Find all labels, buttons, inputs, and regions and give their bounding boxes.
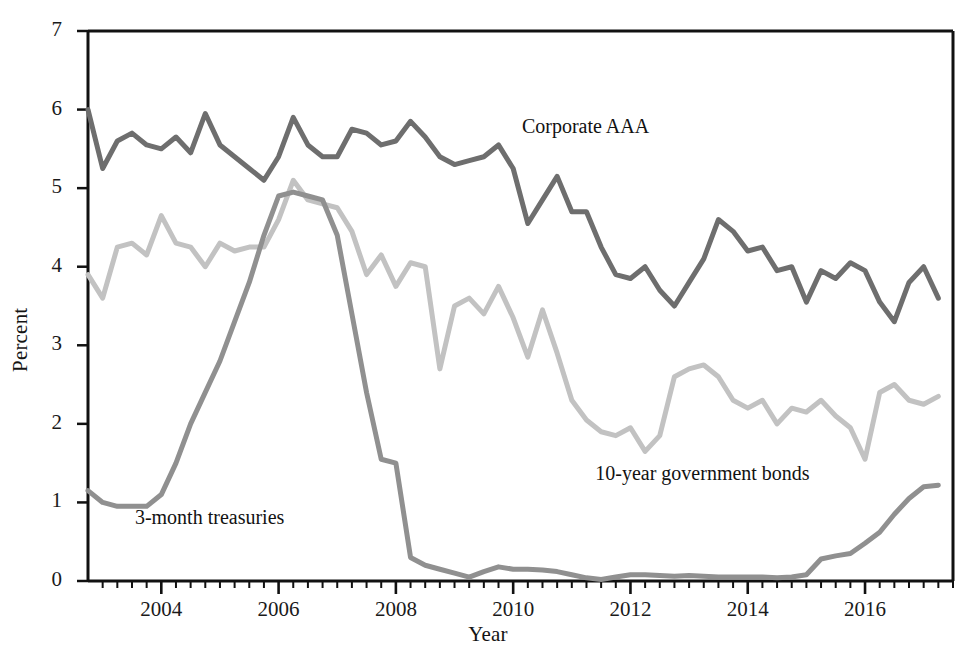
series-line-0	[88, 110, 938, 322]
y-tick-label-0: 0	[22, 567, 62, 592]
y-tick-label-4: 4	[22, 253, 62, 278]
y-tick-label-7: 7	[22, 17, 62, 42]
label-3-month-treasuries: 3-month treasuries	[135, 506, 284, 529]
x-tick-label-2016: 2016	[820, 597, 910, 622]
y-tick-label-2: 2	[22, 410, 62, 435]
x-tick-label-2012: 2012	[585, 597, 675, 622]
x-tick-label-2004: 2004	[116, 597, 206, 622]
y-tick-label-5: 5	[22, 174, 62, 199]
chart-figure: Percent Year 01234567 200420062008201020…	[0, 0, 976, 659]
y-tick-label-6: 6	[22, 96, 62, 121]
x-tick-label-2008: 2008	[351, 597, 441, 622]
x-tick-label-2010: 2010	[468, 597, 558, 622]
x-tick-label-2006: 2006	[234, 597, 324, 622]
line-chart-plot	[0, 0, 976, 659]
x-tick-label-2014: 2014	[703, 597, 793, 622]
series-line-1	[88, 180, 938, 459]
axis-lines	[88, 31, 953, 581]
y-tick-label-1: 1	[22, 488, 62, 513]
y-axis-ticks	[77, 31, 88, 581]
y-tick-label-3: 3	[22, 331, 62, 356]
x-axis-ticks	[103, 581, 953, 594]
label-10-year-government-bonds: 10-year government bonds	[595, 462, 809, 485]
label-corporate-aaa: Corporate AAA	[522, 115, 649, 138]
x-axis-title: Year	[0, 622, 976, 647]
